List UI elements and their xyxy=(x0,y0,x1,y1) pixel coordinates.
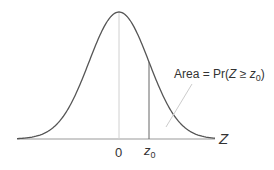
axis-label-z: Z xyxy=(219,130,228,147)
area-prefix: Area = Pr( xyxy=(174,67,229,81)
annotation-leader-line xyxy=(166,84,192,127)
tick-label-zero: 0 xyxy=(115,145,122,160)
area-suffix: ) xyxy=(261,67,265,81)
tick-label-z0: z0 xyxy=(144,143,156,160)
area-rel: ≥ xyxy=(236,67,249,81)
area-annotation: Area = Pr(Z ≥ z0) xyxy=(174,67,265,83)
normal-distribution-diagram xyxy=(0,0,274,170)
tick-zero: 0 xyxy=(115,145,122,160)
axis-var: Z xyxy=(219,130,228,147)
tick-z-sub: 0 xyxy=(151,150,156,160)
